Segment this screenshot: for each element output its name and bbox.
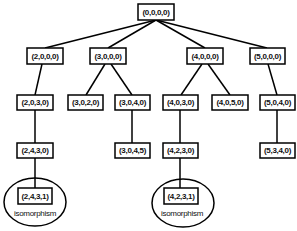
tree-node: (5,0,0,0) (250, 48, 285, 64)
edge-n2-n6 (86, 64, 105, 95)
tree-node: (5,0,4,0) (260, 95, 295, 110)
tree-diagram: (0,0,0,0) (2,0,0,0) (3,0,0,0) (4,0,0,0) … (0, 0, 297, 231)
node-label: (3,0,0,0) (94, 52, 122, 61)
tree-node: (4,2,3,0) (163, 143, 198, 158)
edge-n3-n9 (208, 64, 230, 95)
node-label: (4,0,3,0) (167, 98, 195, 107)
node-label: (5,0,0,0) (254, 52, 282, 61)
tree-node: (4,0,5,0) (212, 95, 248, 110)
tree-node: (3,0,2,0) (68, 95, 103, 110)
isomorphism-label: isomorphism (14, 209, 57, 218)
node-label: (2,4,3,0) (21, 146, 49, 155)
tree-node: (4,0,3,0) (163, 95, 198, 110)
edge-n0-n4 (156, 20, 267, 48)
tree-node-isomorphic: (4,2,3,1) isomorphism (161, 188, 204, 218)
node-label: (2,4,3,1) (21, 192, 49, 201)
node-label: (2,0,0,0) (31, 52, 59, 61)
edge-n4-n10 (268, 64, 277, 95)
tree-node-isomorphic: (2,4,3,1) isomorphism (14, 188, 57, 218)
isomorphism-label: isomorphism (161, 209, 204, 218)
node-label: (5,3,4,0) (264, 146, 292, 155)
tree-node: (2,0,3,0) (17, 95, 53, 110)
node-label: (3,0,2,0) (72, 98, 100, 107)
edge-n1-n5 (35, 64, 42, 95)
node-label: (2,0,3,0) (21, 98, 49, 107)
node-label: (4,2,3,0) (167, 146, 195, 155)
tree-node: (3,0,0,0) (90, 48, 126, 64)
edge-n0-n1 (45, 20, 156, 48)
node-label: (0,0,0,0) (142, 8, 170, 17)
edge-n3-n8 (181, 64, 202, 95)
tree-node: (2,4,3,0) (17, 143, 53, 158)
tree-node: (4,0,0,0) (187, 48, 223, 64)
tree-node: (3,0,4,0) (115, 95, 150, 110)
tree-node-root: (0,0,0,0) (138, 4, 174, 20)
node-label: (5,0,4,0) (264, 98, 292, 107)
node-label: (4,0,0,0) (191, 52, 219, 61)
node-label: (3,0,4,5) (119, 146, 147, 155)
edge-n0-n2 (108, 20, 156, 48)
tree-node: (5,3,4,0) (260, 143, 295, 158)
edge-n0-n3 (156, 20, 205, 48)
node-label: (3,0,4,0) (119, 98, 147, 107)
node-label: (4,2,3,1) (167, 192, 195, 201)
tree-node: (2,0,0,0) (27, 48, 63, 64)
edge-n2-n7 (111, 64, 132, 95)
tree-node: (3,0,4,5) (115, 143, 150, 158)
node-label: (4,0,5,0) (216, 98, 244, 107)
